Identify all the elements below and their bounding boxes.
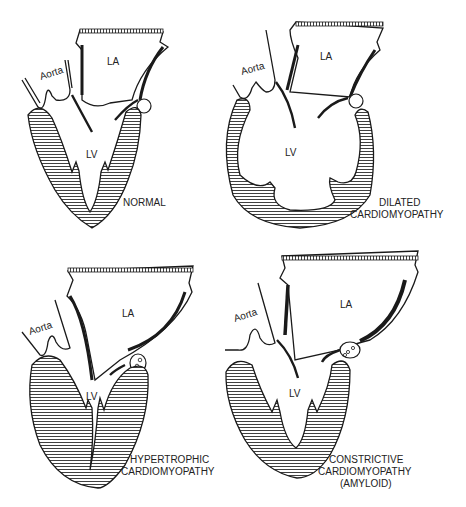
left-atrium (76, 30, 168, 106)
label-aorta: Aorta (27, 319, 54, 337)
label-aorta: Aorta (240, 60, 266, 77)
figure-caption-clipped (0, 500, 466, 507)
panel-title-dilated-line1: DILATED (379, 197, 421, 208)
panel-title-constrictive-line3: (AMYLOID) (340, 478, 392, 489)
label-la: LA (122, 308, 135, 319)
label-lv: LV (289, 388, 301, 399)
label-aorta: Aorta (38, 64, 65, 82)
label-la: LA (107, 56, 120, 67)
panel-constrictive: Aorta LA LV CONSTRICTIVE CARDIOMYOPATHY … (225, 251, 418, 489)
panel-hypertrophic: Aorta LA LV HYPERTROPHIC CARDIOMYOPATHY (22, 266, 215, 488)
panel-title-hypertrophic-line1: HYPERTROPHIC (130, 454, 209, 465)
panel-title-hypertrophic-line2: CARDIOMYOPATHY (121, 466, 215, 477)
panel-title-constrictive-line1: CONSTRICTIVE (329, 454, 404, 465)
panel-normal: Aorta LA LV NORMAL (22, 29, 168, 228)
label-lv: LV (86, 149, 98, 160)
label-la: LA (320, 51, 333, 62)
cardiomyopathy-diagram: Aorta LA LV NORMAL Aorta LA LV DILATED C… (0, 0, 466, 507)
panel-title-constrictive-line2: CARDIOMYOPATHY (318, 466, 412, 477)
panel-title-normal: NORMAL (123, 197, 166, 208)
label-lv: LV (86, 391, 98, 402)
lv-wall (28, 108, 141, 228)
label-aorta: Aorta (232, 306, 259, 324)
label-la: LA (340, 299, 353, 310)
label-lv: LV (285, 147, 297, 158)
panel-dilated: Aorta LA LV DILATED CARDIOMYOPATHY (226, 22, 443, 228)
panel-title-dilated-line2: CARDIOMYOPATHY (350, 209, 444, 220)
